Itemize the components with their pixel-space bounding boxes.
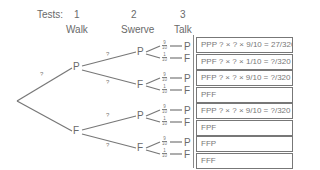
prob-swerve-ff: ? [106, 143, 109, 147]
node-talk-7: P [184, 137, 191, 148]
node-swerve-pf: F [137, 79, 143, 90]
node-walk-p: P [73, 61, 80, 72]
node-talk-3: P [184, 73, 191, 84]
node-swerve-ff: F [137, 142, 143, 153]
prob-talk-8: 110 [162, 149, 167, 158]
prob-talk-3: 910 [162, 73, 167, 82]
outcome-fpp: FPP ? × ? × 9/10 = ?/320 [196, 103, 293, 119]
node-swerve-pp: P [137, 46, 144, 57]
outcome-ffp: FFP [196, 136, 293, 152]
prob-talk-1: 910 [162, 41, 167, 50]
prob-swerve-pf: ? [106, 80, 109, 84]
node-walk-f: F [73, 125, 79, 136]
node-swerve-fp: P [137, 110, 144, 121]
outcome-fpf: FPF [196, 120, 293, 136]
node-talk-2: F [184, 53, 190, 64]
node-talk-1: P [184, 41, 191, 52]
node-talk-8: F [184, 149, 190, 160]
prob-talk-6: 110 [162, 117, 167, 126]
prob-talk-2: 110 [162, 53, 167, 62]
prob-walk-p: ? [40, 72, 43, 76]
outcome-pfp: PFP ? × ? × 9/10 = ?/320 [196, 70, 293, 86]
outcome-fff: FFF [196, 153, 293, 169]
prob-swerve-pp: ? [106, 52, 109, 56]
prob-talk-5: 910 [162, 105, 167, 114]
outcome-ppp: PPP ? × ? × 9/10 = 27/320 [196, 37, 293, 53]
node-talk-5: P [184, 105, 191, 116]
node-talk-4: F [184, 85, 190, 96]
outcome-ppf: PPF ? × ? × 1/10 = ?/320 [196, 54, 293, 70]
outcome-list: PPP ? × ? × 9/10 = 27/320 PPF ? × ? × 1/… [196, 37, 293, 169]
prob-swerve-fp: ? [106, 113, 109, 117]
node-talk-6: F [184, 117, 190, 128]
prob-talk-4: 110 [162, 85, 167, 94]
outcome-pff: PFF [196, 87, 293, 103]
prob-talk-7: 910 [162, 137, 167, 146]
